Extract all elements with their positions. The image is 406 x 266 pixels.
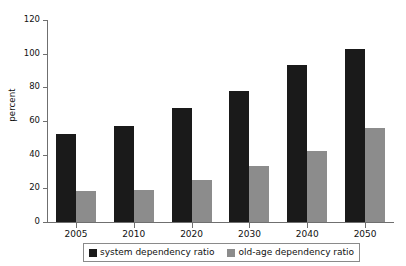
plot-area: 020406080100120200520102020203020402050 xyxy=(47,20,394,222)
x-axis-tick-label: 2030 xyxy=(224,229,274,239)
bar xyxy=(345,49,365,222)
bar xyxy=(365,128,385,222)
bar-group xyxy=(229,20,269,222)
y-axis-tick-label: 80 xyxy=(29,81,40,91)
x-axis-tick-label: 2010 xyxy=(109,229,159,239)
bar xyxy=(287,65,307,222)
legend-swatch xyxy=(89,249,97,257)
x-axis-tick-label: 2020 xyxy=(167,229,217,239)
y-axis-tick: 60 xyxy=(43,121,48,122)
bar xyxy=(229,91,249,222)
x-axis-tick xyxy=(134,223,135,228)
x-axis-tick xyxy=(307,223,308,228)
bar-group xyxy=(345,20,385,222)
y-axis-tick-label: 120 xyxy=(24,14,40,24)
bar-chart: percent 02040608010012020052010202020302… xyxy=(0,0,406,266)
x-axis-tick-label: 2005 xyxy=(51,229,101,239)
bar xyxy=(249,166,269,222)
legend-entry: system dependency ratio xyxy=(89,248,214,257)
y-axis-tick: 0 xyxy=(43,222,48,223)
y-axis-tick: 100 xyxy=(43,54,48,55)
y-axis-tick: 20 xyxy=(43,188,48,189)
y-axis-tick: 80 xyxy=(43,87,48,88)
bar-group xyxy=(172,20,212,222)
x-axis-tick xyxy=(365,223,366,228)
x-axis-tick xyxy=(192,223,193,228)
y-axis-tick-label: 100 xyxy=(24,48,40,58)
x-axis-tick-label: 2040 xyxy=(282,229,332,239)
y-axis-tick-label: 0 xyxy=(35,216,40,226)
chart-legend: system dependency ratioold-age dependenc… xyxy=(83,243,360,262)
x-axis-tick xyxy=(76,223,77,228)
y-axis-tick: 40 xyxy=(43,155,48,156)
bar xyxy=(307,151,327,222)
x-axis-tick xyxy=(249,223,250,228)
bar xyxy=(56,134,76,222)
legend-swatch xyxy=(227,249,235,257)
x-axis-tick-label: 2050 xyxy=(340,229,390,239)
bar-group xyxy=(56,20,96,222)
bar xyxy=(76,191,96,222)
bar-group xyxy=(287,20,327,222)
bar xyxy=(192,180,212,222)
bar-group xyxy=(114,20,154,222)
y-axis-tick-label: 20 xyxy=(29,182,40,192)
bar xyxy=(114,126,134,222)
bar xyxy=(134,190,154,222)
legend-label: old-age dependency ratio xyxy=(238,248,354,257)
y-axis-tick-label: 40 xyxy=(29,149,40,159)
y-axis-label: percent xyxy=(7,75,17,135)
legend-entry: old-age dependency ratio xyxy=(227,248,354,257)
y-axis-tick-label: 60 xyxy=(29,115,40,125)
bar xyxy=(172,108,192,222)
y-axis-tick: 120 xyxy=(43,20,48,21)
legend-label: system dependency ratio xyxy=(100,248,214,257)
x-axis-line xyxy=(47,222,394,223)
